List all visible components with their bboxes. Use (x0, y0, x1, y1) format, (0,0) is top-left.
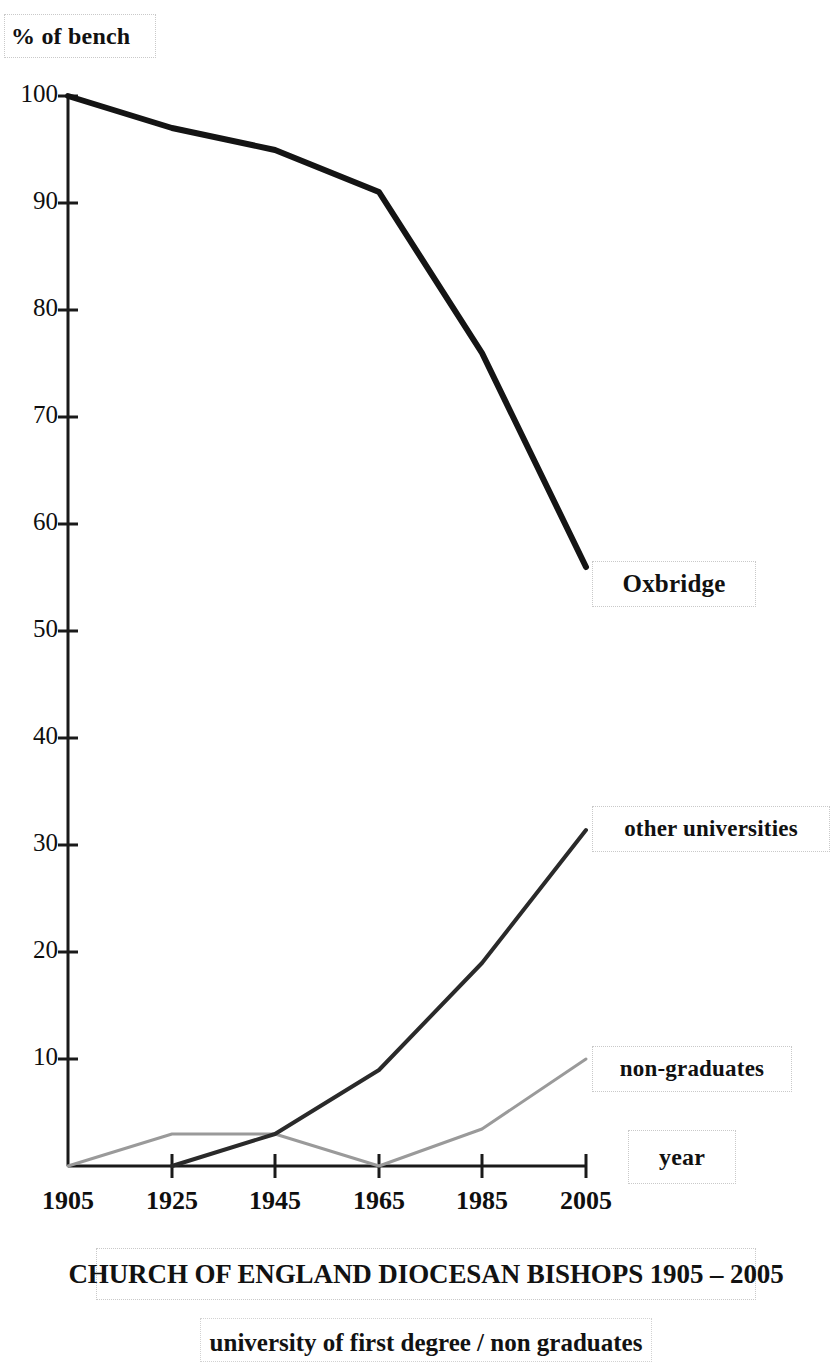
y-tick-label-70: 70 (0, 401, 58, 429)
y-tick-label-60: 60 (0, 508, 58, 536)
y-tick-label-90: 90 (0, 187, 58, 215)
y-tick-label-10: 10 (0, 1043, 58, 1071)
y-tick-label-30: 30 (0, 829, 58, 857)
series-label-non-graduates: non-graduates (592, 1046, 792, 1092)
x-tick-label-1985: 1985 (437, 1186, 527, 1216)
y-tick-label-20: 20 (0, 936, 58, 964)
y-tick-label-50: 50 (0, 615, 58, 643)
y-tick-label-80: 80 (0, 294, 58, 322)
x-tick-label-1905: 1905 (23, 1186, 113, 1216)
y-tick-label-100: 100 (0, 80, 58, 108)
series-line-other-universities (172, 830, 586, 1166)
chart-title: CHURCH OF ENGLAND DIOCESAN BISHOPS 1905 … (96, 1248, 756, 1300)
series-line-oxbridge (68, 96, 586, 567)
series-label-other-universities: other universities (592, 806, 830, 852)
x-axis-caption: year (628, 1130, 736, 1184)
x-tick-label-2005: 2005 (541, 1186, 631, 1216)
series-line-non-graduates (68, 1059, 586, 1166)
x-tick-label-1945: 1945 (230, 1186, 320, 1216)
y-tick-label-40: 40 (0, 722, 58, 750)
chart-subtitle: university of first degree / non graduat… (200, 1318, 652, 1362)
series-label-oxbridge: Oxbridge (592, 561, 756, 607)
x-tick-label-1965: 1965 (334, 1186, 424, 1216)
x-tick-label-1925: 1925 (127, 1186, 217, 1216)
